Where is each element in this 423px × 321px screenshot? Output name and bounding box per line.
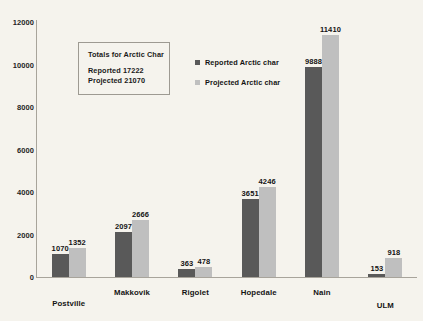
legend-item-reported: Reported Arctic char [195,58,280,67]
totals-box-projected: Projected 21070 [88,76,161,86]
x-axis-label-rigolet: Rigolet [164,277,227,321]
x-axis-label-text: Hopedale [241,288,277,297]
bar-group: 988811410 [290,0,353,277]
legend-item-projected: Projected Arctic char [195,78,280,87]
bar-reported[interactable]: 3651 [242,199,259,277]
legend-label-projected: Projected Arctic char [205,78,280,87]
x-axis-category-labels: PostvilleMakkovikRigoletHopedaleNainULM [37,277,417,321]
bar-pair: 36514246 [242,0,276,277]
x-axis-label-nain: Nain [290,277,353,321]
bar-value-label: 1070 [52,244,69,253]
bar-reported[interactable]: 9888 [305,67,322,277]
bar-value-label: 11410 [320,25,341,34]
bar-pair: 988811410 [305,0,339,277]
bar-value-label: 1352 [69,238,86,247]
bar-projected[interactable]: 478 [195,267,212,277]
x-axis-label-text: ULM [377,301,394,310]
x-axis-label-ulm: ULM [354,277,417,321]
x-axis-label-postville: Postville [37,277,100,321]
x-axis-label-hopedale: Hopedale [227,277,290,321]
bar-value-label: 2666 [132,210,149,219]
bar-chart: 020004000600080001000012000 107013522097… [0,0,423,321]
legend-label-reported: Reported Arctic char [205,58,279,67]
totals-box-reported: Reported 17222 [88,66,161,76]
bar-reported[interactable]: 2097 [115,232,132,277]
y-axis-tick-2000: 2000 [2,230,34,239]
y-axis-tick-12000: 12000 [2,18,34,27]
y-axis-tick-4000: 4000 [2,188,34,197]
bar-projected[interactable]: 4246 [259,187,276,277]
x-axis-label-text: Rigolet [182,288,209,297]
bar-projected[interactable]: 1352 [69,248,86,277]
totals-annotation-box: Totals for Arctic Char Reported 17222 Pr… [78,42,170,95]
bar-value-label: 153 [370,264,383,273]
y-axis-tick-labels: 020004000600080001000012000 [0,0,34,321]
y-axis-tick-6000: 6000 [2,145,34,154]
bar-group: 153918 [354,0,417,277]
bar-reported[interactable]: 363 [178,269,195,277]
chart-legend: Reported Arctic char Projected Arctic ch… [195,58,280,98]
bar-value-label: 363 [180,259,193,268]
bar-pair: 153918 [368,0,402,277]
bar-value-label: 9888 [305,57,322,66]
bar-value-label: 4246 [259,177,276,186]
x-axis-label-makkovik: Makkovik [100,277,163,321]
bar-value-label: 2097 [115,222,132,231]
bar-group: 36514246 [227,0,290,277]
legend-swatch-icon-projected [195,80,200,85]
bar-projected[interactable]: 918 [385,258,402,278]
bar-value-label: 3651 [242,189,259,198]
totals-box-title: Totals for Arctic Char [88,50,161,59]
y-axis-tick-8000: 8000 [2,103,34,112]
bar-projected[interactable]: 2666 [132,220,149,277]
x-axis-label-text: Nain [313,288,330,297]
bar-reported[interactable]: 1070 [52,254,69,277]
bar-value-label: 918 [387,248,400,257]
bar-group: 363478 [164,0,227,277]
x-axis-label-text: Postville [52,299,85,308]
y-axis-tick-10000: 10000 [2,60,34,69]
bar-value-label: 478 [197,257,210,266]
bar-pair: 363478 [178,0,212,277]
legend-swatch-icon-reported [195,60,200,65]
y-axis-tick-0: 0 [2,273,34,282]
x-axis-label-text: Makkovik [114,288,150,297]
bar-projected[interactable]: 11410 [322,35,339,277]
